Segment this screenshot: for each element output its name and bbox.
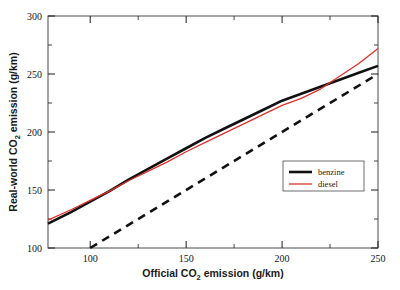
x-tick-label: 100 xyxy=(83,253,98,264)
legend-label-diesel: diesel xyxy=(318,179,338,189)
x-tick-label: 150 xyxy=(179,253,194,264)
y-tick-label: 250 xyxy=(27,69,42,80)
y-tick-label: 150 xyxy=(27,185,42,196)
x-axis-title: Official CO2 emission (g/km) xyxy=(142,267,283,282)
chart-canvas: 100150200250 100150200250300 Official CO… xyxy=(0,0,400,290)
chart-figure: 100150200250 100150200250300 Official CO… xyxy=(0,0,400,290)
plot-frame xyxy=(48,16,378,248)
y-tick-label: 200 xyxy=(27,127,42,138)
y-tick-label: 300 xyxy=(27,11,42,22)
legend-label-benzine: benzine xyxy=(318,167,345,177)
y-axis-title-rest: emission (g/km) xyxy=(7,52,19,135)
x-axis-title-rest: emission (g/km) xyxy=(201,267,284,279)
chart-legend[interactable]: benzinediesel xyxy=(283,161,364,191)
x-tick-label: 250 xyxy=(371,253,386,264)
x-axis-tick-labels: 100150200250 xyxy=(83,253,386,264)
x-axis-title-main: Official CO xyxy=(142,267,196,279)
y-axis-title-main: Real-world CO xyxy=(7,139,19,211)
y-tick-label: 100 xyxy=(27,243,42,254)
x-tick-label: 200 xyxy=(275,253,290,264)
y-axis-title: Real-world CO2 emission (g/km) xyxy=(7,52,22,211)
y-axis-tick-labels: 100150200250300 xyxy=(27,11,42,254)
